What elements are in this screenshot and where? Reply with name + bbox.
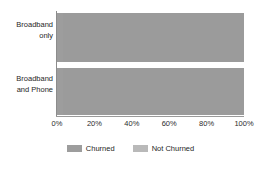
y-axis-label-line: Broadband [0, 20, 53, 31]
x-axis-tick-label: 100% [234, 119, 253, 128]
y-axis-label-broadband-only: Broadband only [0, 20, 53, 41]
legend-label: Churned [86, 144, 115, 153]
legend-item[interactable]: Churned [67, 144, 115, 153]
bar-row [57, 13, 244, 62]
y-axis-label-line: and Phone [0, 85, 53, 96]
x-axis-tick-label: 20% [87, 119, 102, 128]
legend-swatch [67, 145, 82, 152]
chart-container: Broadband only Broadband and Phone 0%20%… [0, 0, 261, 169]
y-axis-label-line: Broadband [0, 74, 53, 85]
y-axis-label-broadband-and-phone: Broadband and Phone [0, 74, 53, 95]
legend-swatch [133, 145, 148, 152]
x-axis-line [56, 116, 244, 117]
chart-legend: ChurnedNot Churned [0, 144, 261, 153]
bar-segment-not-churned [63, 13, 244, 62]
y-axis-label-line: only [0, 31, 53, 42]
bar-segment-not-churned [63, 68, 244, 115]
x-axis-tick-label: 80% [199, 119, 214, 128]
x-axis-tick-label: 40% [124, 119, 139, 128]
bar-row [57, 68, 244, 115]
legend-item[interactable]: Not Churned [133, 144, 195, 153]
x-axis-tick-labels: 0%20%40%60%80%100% [57, 119, 244, 131]
x-axis-tick-label: 60% [162, 119, 177, 128]
legend-label: Not Churned [152, 144, 195, 153]
plot-area [57, 12, 244, 116]
x-axis-tick-label: 0% [52, 119, 63, 128]
